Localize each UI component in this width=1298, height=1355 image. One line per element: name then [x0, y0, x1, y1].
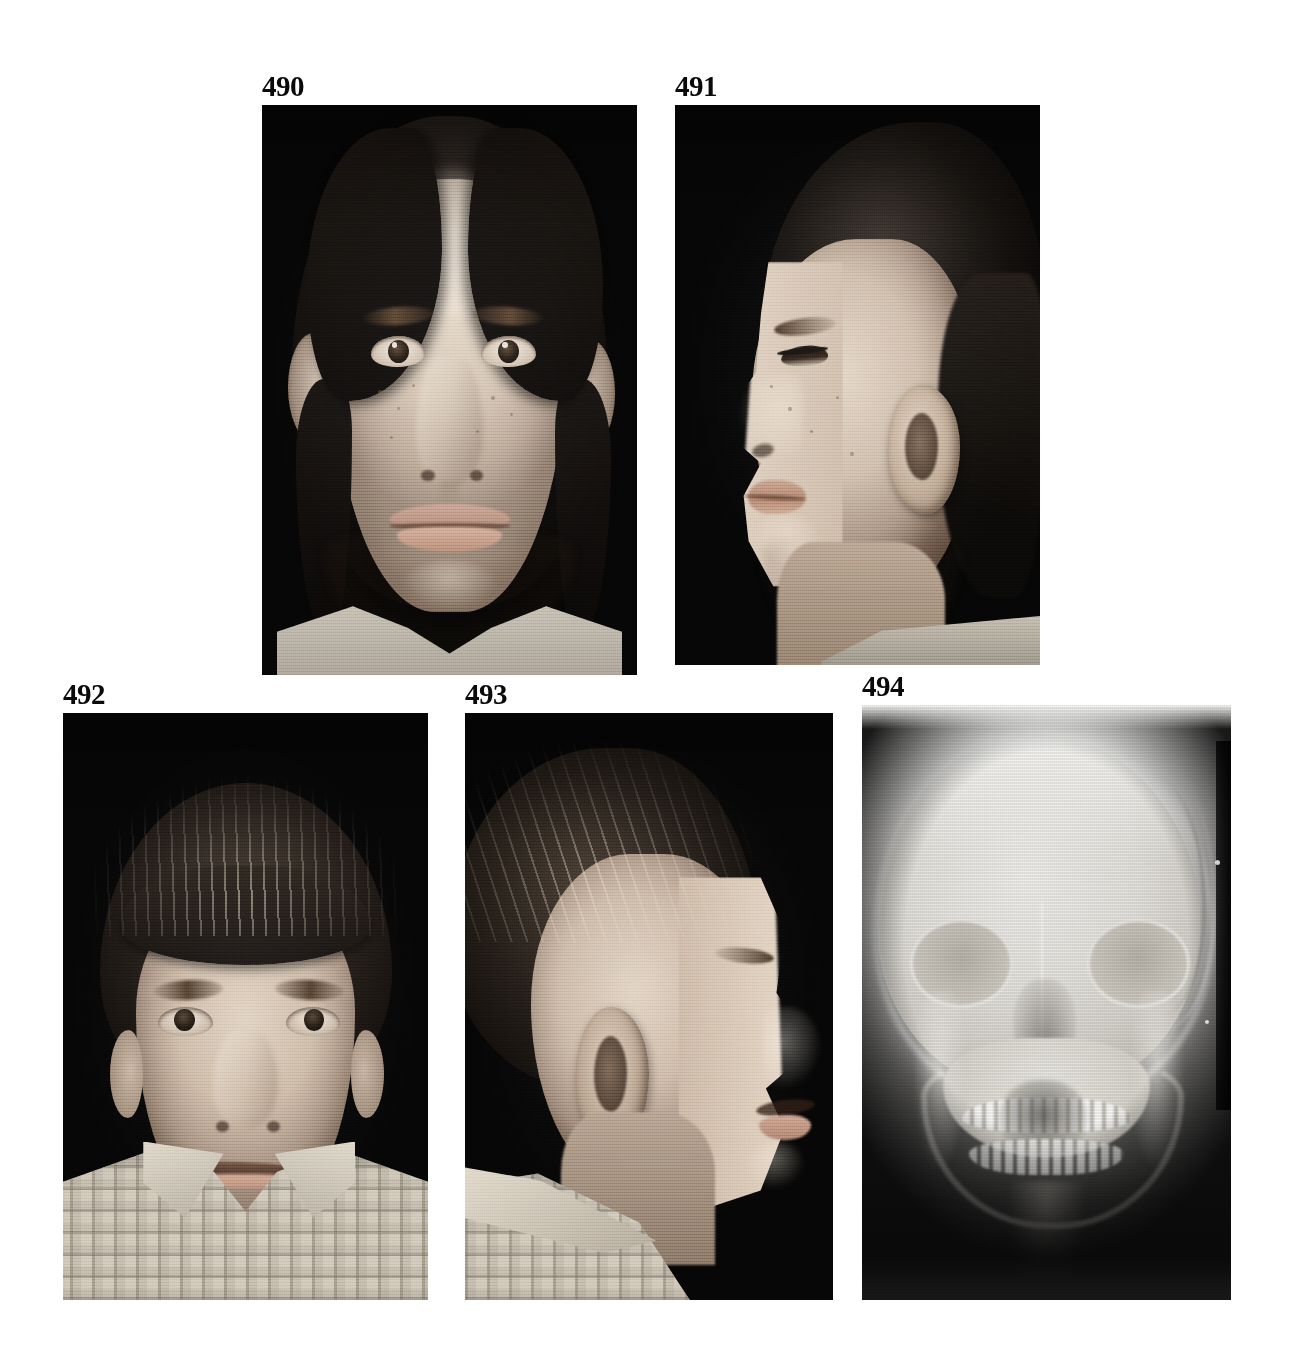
figure-image-492: [63, 713, 428, 1300]
figure-plate: 490: [0, 0, 1298, 1355]
figure-image-490: [262, 105, 637, 675]
film-top-strip: [862, 705, 1231, 729]
film-artifact: [1215, 860, 1220, 865]
figure-label-492: 492: [63, 680, 105, 709]
nostril-left: [421, 470, 435, 481]
nose-region: [763, 1007, 822, 1089]
iris-right: [498, 340, 519, 363]
freckle: [510, 413, 513, 416]
freckle: [491, 396, 495, 400]
figure-panel-492: 492: [63, 713, 428, 1300]
ear-concha: [905, 413, 938, 480]
iris-left: [388, 340, 409, 363]
figure-label-493: 493: [465, 680, 507, 709]
freckle: [810, 430, 813, 433]
ear-left: [110, 1030, 143, 1118]
freckle: [476, 430, 479, 433]
hair-highlights: [92, 760, 399, 936]
figure-label-490: 490: [262, 72, 304, 101]
figure-image-491: [675, 105, 1040, 665]
figure-panel-490: 490: [262, 105, 637, 675]
clinical-photo-girl-frontal: [262, 105, 637, 675]
freckle: [770, 385, 773, 388]
clinical-photo-girl-lateral: [675, 105, 1040, 665]
hair-highlights: [465, 742, 752, 942]
iris-right: [304, 1009, 324, 1031]
freckle: [836, 396, 839, 399]
clinical-photo-boy-lateral: [465, 713, 833, 1300]
ear-concha: [594, 1036, 627, 1112]
figure-label-494: 494: [862, 672, 904, 701]
figure-label-491: 491: [675, 72, 717, 101]
clinical-photo-boy-frontal: [63, 713, 428, 1300]
figure-image-493: [465, 713, 833, 1300]
figure-panel-494: 494: [862, 705, 1231, 1300]
hair-side-right: [555, 379, 611, 641]
eye-highlight-right: [502, 342, 508, 348]
skull-radiograph: [862, 705, 1231, 1300]
figure-image-494: [862, 705, 1231, 1300]
iris-left: [174, 1009, 194, 1031]
chin-region: [748, 1142, 803, 1189]
nose-region: [213, 1030, 279, 1130]
nose-region: [416, 356, 484, 487]
film-edge-strip: [1216, 741, 1231, 1110]
film-darkfield: [862, 705, 1231, 1300]
ear-right: [351, 1030, 384, 1118]
freckle: [390, 436, 393, 439]
figure-panel-491: 491: [675, 105, 1040, 665]
figure-panel-493: 493: [465, 713, 833, 1300]
lips: [759, 1115, 811, 1140]
